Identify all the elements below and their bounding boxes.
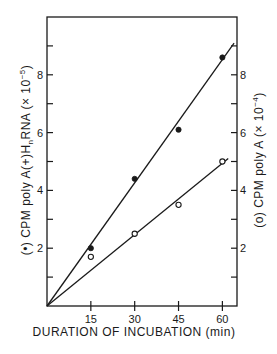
- right-y-axis-title: (o) CPM poly A (× 10−4): [251, 92, 266, 228]
- x-tick-label: 45: [172, 313, 184, 325]
- x-axis-ticks: 15304560: [85, 301, 229, 325]
- open-circle-point: [132, 231, 137, 236]
- left-y-axis-ticks: 2468: [37, 46, 53, 277]
- right-y-tick-label: 2: [240, 242, 246, 254]
- left-y-axis-title: (•) CPM poly A(+)HnRNA (× 10−5): [18, 65, 35, 256]
- left-y-tick-label: 4: [37, 184, 43, 196]
- right-y-axis-ticks: 2468: [231, 46, 246, 277]
- filled-circle-point: [176, 127, 181, 132]
- open-circle-point: [88, 254, 93, 259]
- x-tick-label: 30: [129, 313, 141, 325]
- left-y-tick-label: 8: [37, 69, 43, 81]
- left-y-tick-label: 6: [37, 127, 43, 139]
- open-circle-point: [220, 159, 225, 164]
- x-tick-label: 60: [216, 313, 228, 325]
- fit-lines: [47, 43, 234, 306]
- polya-fit-line: [47, 159, 228, 306]
- x-tick-label: 15: [85, 313, 97, 325]
- x-axis-title: DURATION OF INCUBATION (min): [33, 325, 236, 339]
- right-y-tick-label: 6: [240, 127, 246, 139]
- right-y-tick-label: 8: [240, 69, 246, 81]
- filled-circle-point: [88, 246, 93, 251]
- right-y-tick-label: 4: [240, 184, 246, 196]
- filled-circle-point: [220, 55, 225, 60]
- open-circle-point: [176, 202, 181, 207]
- left-y-tick-label: 2: [37, 242, 43, 254]
- plot-frame: [47, 17, 237, 306]
- chart: 15304560 2468 2468 DURATION OF INCUBATIO…: [0, 0, 277, 354]
- filled-circle-point: [132, 176, 137, 181]
- hnrna-fit-line: [47, 43, 234, 306]
